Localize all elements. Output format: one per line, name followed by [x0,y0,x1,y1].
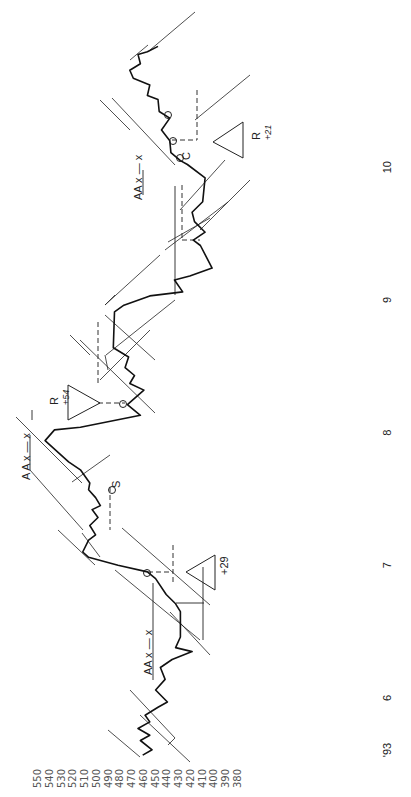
annotation-triangle-2: R [48,397,60,405]
time-tick-label: 9 [381,297,393,303]
channel-line [200,180,250,230]
trend-channels [16,12,250,762]
annotation-marker-s: S [110,481,122,488]
price-tick-label: 480 [114,769,125,788]
annotation-aa-3: AA x — x [132,154,144,200]
signal-circle-marker [120,401,127,408]
chart: 5505405305205105004904804704604504404304… [0,0,411,797]
target-triangle-54 [68,385,100,420]
price-tick-label: 410 [197,769,208,788]
price-tick-label: 490 [103,769,114,788]
price-tick-label: 510 [79,769,90,788]
price-tick-label: 500 [91,769,102,788]
price-tick-label: 380 [232,769,243,788]
price-tick-label: 550 [32,769,43,788]
annotation-aa-2: A A x — x [20,432,32,480]
channel-line [140,715,190,762]
price-tick-label: 400 [208,769,219,788]
channel-line [105,355,108,370]
channel-line [58,530,95,565]
price-tick-label: 420 [185,769,196,788]
annotation-aa-1: AA x — x [142,629,154,675]
time-tick-label: 6 [381,695,393,701]
annotation-marker-c: C [180,152,192,160]
annotation-triangle-1: +29 [218,556,230,575]
price-tick-label: 460 [138,769,149,788]
annotation-labels: AA x — x+29SA A x — xR+54AA x — xCR+21 [20,125,273,675]
channel-line [195,75,250,120]
channel-line [108,730,140,757]
channel-line [100,100,130,130]
time-tick-label: '93 [381,743,393,757]
target-triangle-29 [186,555,215,590]
channel-line [70,335,90,355]
channel-line [130,690,175,738]
target-triangle-21 [213,122,243,158]
price-tick-label: 520 [67,769,78,788]
channel-line [168,738,175,745]
channel-line [105,295,115,305]
annotation-value-triangle-3: +21 [263,125,273,140]
price-tick-label: 470 [126,769,137,788]
price-tick-label: 390 [220,769,231,788]
annotation-triangle-3: R [250,132,262,140]
price-tick-label: 430 [173,769,184,788]
price-tick-label: 440 [161,769,172,788]
annotation-value-triangle-2: +54 [61,390,71,405]
channel-line [150,12,195,50]
price-tick-label: 450 [150,769,161,788]
time-tick-label: 7 [381,562,393,568]
time-tick-label: 8 [381,430,393,436]
price-tick-label: 530 [56,769,67,788]
channel-line [30,470,83,530]
time-tick-label: 10 [381,161,393,173]
time-axis-labels: '93678910 [381,161,393,757]
price-tick-label: 540 [44,769,55,788]
channel-line [105,255,160,305]
channel-line [170,612,210,655]
price-axis-labels: 5505405305205105004904804704604504404304… [32,769,243,788]
